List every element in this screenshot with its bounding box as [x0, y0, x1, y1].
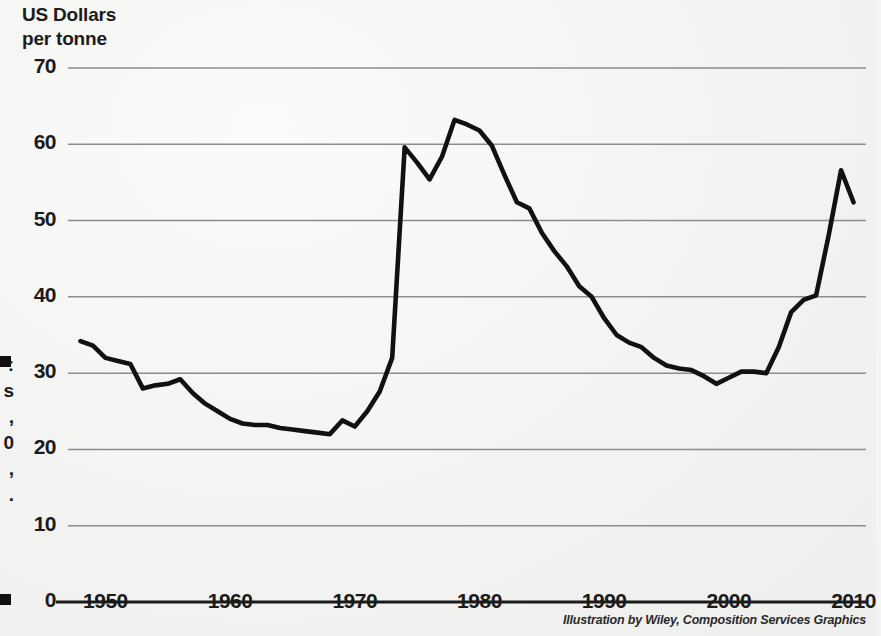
y-tick-label-70: 70 [4, 54, 56, 78]
gridlines [68, 68, 866, 526]
y-tick-label-10: 10 [4, 512, 56, 536]
x-tick-label-1950: 1950 [60, 589, 150, 613]
y-tick-label-0: 0 [4, 588, 56, 612]
y-tick-label-60: 60 [4, 130, 56, 154]
y-tick-label-20: 20 [4, 435, 56, 459]
illustration-credit: Illustration by Wiley, Composition Servi… [563, 613, 866, 627]
y-tick-label-30: 30 [4, 359, 56, 383]
x-tick-label-1980: 1980 [434, 589, 524, 613]
price-line-series [80, 120, 853, 434]
y-tick-label-50: 50 [4, 207, 56, 231]
x-tick-label-2010: 2010 [809, 589, 881, 613]
x-tick-label-1960: 1960 [185, 589, 275, 613]
x-tick-label-1990: 1990 [559, 589, 649, 613]
x-tick-label-1970: 1970 [310, 589, 400, 613]
x-tick-label-2000: 2000 [684, 589, 774, 613]
y-tick-label-40: 40 [4, 283, 56, 307]
